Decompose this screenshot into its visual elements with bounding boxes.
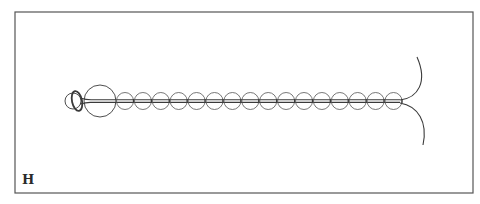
bead [260,93,277,110]
bead [313,93,330,110]
bead [224,93,241,110]
illustration-canvas [0,0,480,204]
bead-row [117,93,403,110]
knotted-cord-illustration: H [0,0,480,204]
bead [296,93,313,110]
bead [242,93,259,110]
bead [188,93,205,110]
tail-lower [400,103,424,145]
bead [152,93,169,110]
cord-tails [400,57,424,145]
bead [331,93,348,110]
bead [134,93,151,110]
bead [206,93,223,110]
cord-head [65,85,116,117]
bead [117,93,134,110]
bead [278,93,295,110]
bead [385,93,402,110]
large-bead [84,85,116,117]
cord-strands [80,98,400,104]
bead [349,93,366,110]
cord-strand-lower [80,102,400,104]
bead [367,93,384,110]
tail-upper [400,57,422,100]
panel-label: H [22,172,34,187]
bead [170,93,187,110]
cord-strand-upper [80,98,400,100]
